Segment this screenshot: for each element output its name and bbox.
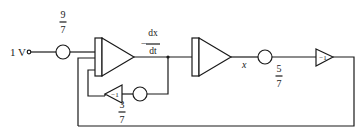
integrator-2-input-bar (192, 38, 199, 76)
integrator-1-input-bar (95, 38, 102, 76)
inverter-inner: −1 (105, 85, 122, 103)
derivative-label: − dx dt (141, 28, 160, 56)
integrator-2-triangle-icon (199, 38, 231, 76)
output-x-label: x (241, 59, 247, 70)
coef-5-7-denominator: 7 (277, 78, 282, 89)
integrator-1-triangle-icon (102, 38, 134, 76)
inverter-inner-label: −1 (111, 91, 119, 99)
inverter-outer-label: −1 (319, 54, 327, 62)
wire-inner-feedback-down (147, 57, 168, 94)
coefficient-potentiometer-3-7: 3 7 (119, 87, 148, 125)
analog-computer-diagram: 1 V 9 7 − dx dt 3 7 −1 (0, 0, 363, 134)
derivative-numerator: dx (148, 28, 158, 38)
coefficient-potentiometer-9-7: 9 7 (56, 9, 70, 59)
coef-3-7-denominator: 7 (120, 114, 125, 125)
integrator-2 (192, 38, 231, 76)
input-voltage-label: 1 V (10, 46, 26, 58)
wire-outer-feedback-entry (78, 58, 95, 126)
coef-9-7-denominator: 7 (61, 24, 66, 35)
input-terminal (27, 50, 31, 54)
integrator-1 (95, 38, 134, 76)
inverter-outer: −1 (316, 49, 333, 66)
coef-5-7-numerator: 5 (277, 63, 282, 74)
coefficient-potentiometer-5-7: 5 7 (258, 50, 283, 89)
coef-9-7-numerator: 9 (61, 9, 66, 20)
derivative-denominator: dt (149, 46, 157, 56)
